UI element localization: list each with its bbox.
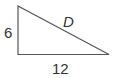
hypotenuse-label: D — [63, 14, 74, 29]
height-label: 6 — [4, 25, 12, 40]
right-triangle-diagram: 6 12 D — [0, 0, 117, 78]
base-label: 12 — [52, 61, 69, 76]
